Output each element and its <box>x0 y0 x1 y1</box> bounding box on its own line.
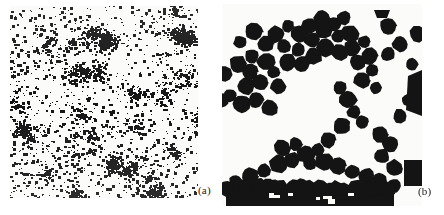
panel-a-speckle <box>10 6 198 198</box>
panel-b-canvas <box>222 4 422 206</box>
figure-container: (a) (b) <box>0 0 444 215</box>
panel-b-label: (b) <box>418 186 431 197</box>
panel-a-label: (a) <box>198 185 211 196</box>
panel-b-discs <box>222 4 422 206</box>
panel-a-canvas <box>10 6 198 198</box>
